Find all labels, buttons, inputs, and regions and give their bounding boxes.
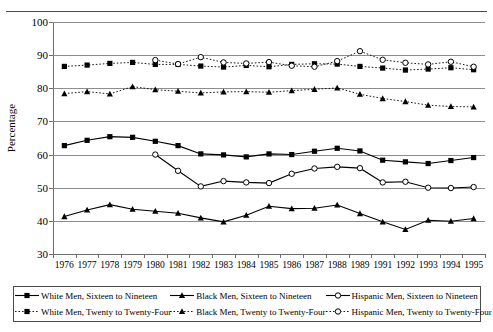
data-point-marker: [357, 91, 363, 97]
y-tick-label: 100: [32, 16, 49, 28]
x-tick-label: 1981: [169, 260, 188, 270]
data-point-marker: [334, 202, 340, 208]
data-point-marker: [107, 134, 112, 139]
x-tick-mark: [189, 254, 190, 258]
data-point-marker: [380, 158, 385, 163]
x-tick-label: 1984: [237, 260, 256, 270]
x-tick-mark: [349, 254, 350, 258]
legend-white-20-24[interactable]: White Men, Twenty to Twenty-Four: [14, 304, 169, 319]
x-tick-mark: [144, 254, 145, 258]
y-tick-label: 80: [37, 82, 48, 94]
legend-black-20-24[interactable]: Black Men, Twenty to Twenty-Four: [169, 304, 324, 319]
x-tick-mark: [485, 254, 486, 258]
x-tick-mark: [76, 254, 77, 258]
x-tick-label: 1994: [441, 260, 460, 270]
data-point-marker: [471, 184, 476, 189]
data-point-marker: [402, 98, 408, 104]
data-point-marker: [152, 86, 158, 92]
data-point-marker: [129, 83, 135, 89]
x-tick-label: 1983: [214, 260, 233, 270]
y-tick-label: 40: [37, 215, 48, 227]
data-point-marker: [62, 64, 67, 69]
data-point-marker: [85, 138, 90, 143]
x-tick-label: 1992: [396, 260, 415, 270]
x-tick-mark: [440, 254, 441, 258]
x-tick-mark: [53, 254, 54, 258]
x-tick-label: 1979: [123, 260, 142, 270]
series-line: [64, 137, 473, 164]
x-tick-mark: [280, 254, 281, 258]
x-tick-label: 1989: [350, 260, 369, 270]
x-tick-mark: [121, 254, 122, 258]
data-point-marker: [403, 67, 408, 72]
legend-hispanic-16-19[interactable]: Hispanic Men, Sixteen to Nineteen: [325, 288, 480, 303]
x-tick-mark: [258, 254, 259, 258]
gridline: [53, 254, 485, 255]
data-point-marker: [61, 90, 67, 96]
data-point-marker: [448, 59, 453, 64]
series-3: [61, 83, 476, 109]
series-2: [61, 201, 476, 232]
data-point-marker: [335, 58, 340, 63]
legend-sample-holder: [325, 290, 351, 301]
data-point-marker: [24, 293, 29, 298]
data-point-marker: [357, 48, 362, 53]
data-point-marker: [403, 179, 408, 184]
x-tick-label: 1987: [305, 260, 324, 270]
data-point-marker: [153, 152, 158, 157]
legend-black-16-19[interactable]: Black Men, Sixteen to Nineteen: [169, 288, 324, 303]
data-point-marker: [471, 64, 476, 69]
data-point-marker: [425, 185, 430, 190]
x-tick-mark: [98, 254, 99, 258]
data-point-marker: [24, 309, 29, 314]
data-point-marker: [244, 154, 249, 159]
legend-marker-sample: [325, 306, 351, 317]
data-point-marker: [266, 59, 271, 64]
data-point-marker: [62, 143, 67, 148]
legend-label: Black Men, Twenty to Twenty-Four: [196, 306, 325, 317]
legend-row-top: White Men, Sixteen to NineteenBlack Men,…: [14, 288, 480, 303]
legend-sample-holder: [169, 290, 195, 301]
data-point-marker: [335, 146, 340, 151]
legend-label: Hispanic Men, Sixteen to Nineteen: [352, 290, 478, 301]
data-point-marker: [289, 152, 294, 157]
legend-sample-holder: [14, 290, 40, 301]
legend-label: White Men, Sixteen to Nineteen: [41, 290, 157, 301]
data-point-marker: [335, 164, 340, 169]
legend-sample-holder: [325, 306, 351, 317]
legend-sample-holder: [14, 306, 40, 317]
data-point-marker: [175, 61, 180, 66]
data-point-marker: [198, 63, 203, 68]
data-point-marker: [426, 161, 431, 166]
data-point-marker: [357, 148, 362, 153]
legend-marker-sample: [169, 290, 195, 301]
data-point-marker: [130, 60, 135, 65]
x-tick-mark: [212, 254, 213, 258]
x-tick-label: 1980: [146, 260, 165, 270]
data-point-marker: [448, 158, 453, 163]
legend-white-16-19[interactable]: White Men, Sixteen to Nineteen: [14, 288, 169, 303]
y-tick-label: 30: [37, 248, 48, 260]
data-point-marker: [312, 64, 317, 69]
chart-figure: Percentage 30405060708090100 19761977197…: [0, 0, 493, 332]
x-tick-label: 1978: [100, 260, 119, 270]
data-point-marker: [448, 65, 453, 70]
data-point-marker: [175, 168, 180, 173]
data-point-marker: [380, 65, 385, 70]
x-tick-label: 1995: [464, 260, 483, 270]
legend-marker-sample: [14, 306, 40, 317]
series-0: [62, 134, 476, 166]
data-point-marker: [403, 159, 408, 164]
data-point-marker: [107, 61, 112, 66]
legend-hispanic-20-24[interactable]: Hispanic Men, Twenty to Twenty-Four: [325, 304, 480, 319]
data-point-marker: [380, 57, 385, 62]
data-point-marker: [244, 61, 249, 66]
top-divider-rule: [6, 11, 487, 12]
x-tick-mark: [417, 254, 418, 258]
data-point-marker: [153, 139, 158, 144]
x-tick-label: 1986: [282, 260, 301, 270]
data-point-marker: [289, 63, 294, 68]
series-layer: [53, 22, 485, 254]
data-point-marker: [266, 151, 271, 156]
data-point-marker: [198, 151, 203, 156]
